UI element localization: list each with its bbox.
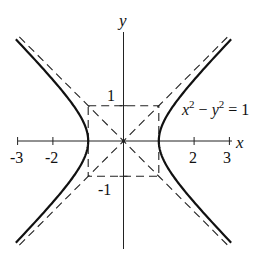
equation-label: x2 − y2 = 1	[181, 98, 249, 119]
x-tick-label: -2	[45, 149, 58, 166]
x-tick-label: -3	[10, 149, 23, 166]
y-tick-label: 1	[107, 87, 115, 104]
x-tick-label: 3	[223, 149, 231, 166]
x-axis-label: x	[235, 133, 244, 152]
hyperbola-figure: -3 -2 2 3 1 -1 x y x2 − y2 = 1	[0, 0, 275, 278]
y-tick-label: -1	[98, 181, 111, 198]
plot-area: -3 -2 2 3 1 -1 x y x2 − y2 = 1	[0, 0, 275, 278]
x-tick-label: 2	[189, 149, 197, 166]
y-axis-label: y	[117, 11, 127, 30]
